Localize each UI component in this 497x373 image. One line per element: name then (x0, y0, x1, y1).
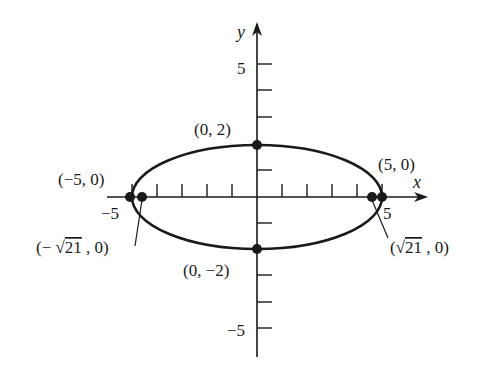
y-tick-label-5: 5 (237, 59, 246, 78)
label-focus-left-suffix: , 0) (82, 238, 109, 257)
point-covertex-bottom (252, 244, 262, 254)
label-focus-left: (− √21 , 0) (36, 238, 109, 257)
label-covertex-top: (0, 2) (194, 120, 231, 139)
y-axis-ticks (257, 64, 272, 328)
point-vertex-right (377, 192, 387, 202)
label-covertex-bottom: (0, −2) (183, 261, 229, 280)
label-focus-right: (√21 , 0) (390, 238, 449, 257)
y-tick-label-neg5: −5 (227, 321, 245, 340)
x-tick-label-neg5: −5 (101, 204, 119, 223)
label-vertex-left: (−5, 0) (58, 170, 104, 189)
label-vertex-right: (5, 0) (378, 155, 415, 174)
label-focus-left-prefix: (− (36, 238, 56, 257)
point-covertex-top (252, 140, 262, 150)
radicand-right: 21 (405, 238, 422, 257)
x-axis-label: x (412, 172, 421, 192)
y-axis-label: y (235, 22, 245, 42)
radicand-left: 21 (65, 238, 82, 257)
x-tick-label-5: 5 (383, 204, 392, 223)
ellipse-diagram: y x 5 −5 −5 5 (0, 2) (0, −2) (−5, 0) (5,… (0, 0, 497, 373)
label-focus-right-suffix: , 0) (422, 238, 449, 257)
leader-focus-left (135, 200, 142, 246)
point-vertex-left (125, 192, 135, 202)
